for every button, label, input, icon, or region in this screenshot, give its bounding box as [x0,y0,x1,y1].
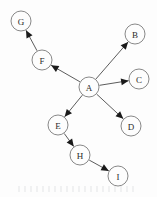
graph-figure: ABCDEFGHI [0,0,157,197]
arrowhead-h-to-i-icon [101,164,109,171]
graph-node-i[interactable]: I [108,166,128,186]
arrowhead-a-to-c-icon [121,78,129,85]
node-label-d: D [128,122,135,132]
graph-node-a[interactable]: A [79,77,99,97]
graph-node-f[interactable]: F [32,50,52,70]
graph-node-b[interactable]: B [125,24,145,44]
graph-node-h[interactable]: H [70,145,90,165]
node-label-a: A [86,83,93,93]
graph-node-g[interactable]: G [11,11,31,31]
node-label-f: F [39,56,44,66]
graph-node-e[interactable]: E [48,115,68,135]
node-label-e: E [55,121,61,131]
graph-canvas: ABCDEFGHI [0,0,157,197]
node-label-b: B [132,30,138,40]
node-label-i: I [117,172,120,182]
node-label-h: H [77,151,84,161]
graph-node-c[interactable]: C [129,69,149,89]
arrowhead-a-to-e-icon [65,109,72,117]
arrowhead-e-to-h-icon [67,138,74,146]
node-label-g: G [18,17,25,27]
graph-node-d[interactable]: D [121,116,141,136]
node-label-c: C [136,75,142,85]
arrowhead-a-to-f-icon [51,65,59,72]
